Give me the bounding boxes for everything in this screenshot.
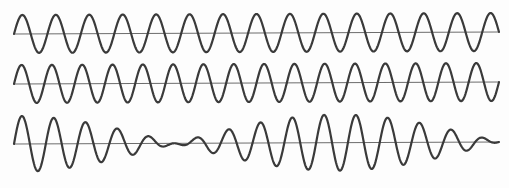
wave-diagram-svg xyxy=(0,0,509,188)
waveform-wave-2 xyxy=(14,63,499,103)
baseline-axis-wave-sum xyxy=(14,142,499,144)
beats-figure xyxy=(0,0,509,188)
baseline-axis-wave-1 xyxy=(14,32,499,34)
